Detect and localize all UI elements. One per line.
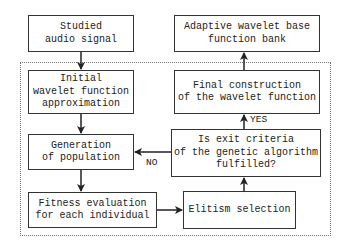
node-initial-wavelet-approximation: Initial wavelet function approximation bbox=[28, 70, 134, 114]
node-elitism-selection: Elitism selection bbox=[183, 191, 296, 229]
edge-label-yes: YES bbox=[250, 114, 267, 125]
node-fitness-evaluation: Fitness evaluation for each individual bbox=[28, 192, 157, 228]
node-studied-audio-signal: Studied audio signal bbox=[28, 15, 134, 52]
edge-label-no: NO bbox=[146, 157, 157, 168]
node-final-wavelet-construction: Final construction of the wavelet functi… bbox=[174, 70, 320, 114]
node-generation-of-population: Generation of population bbox=[28, 134, 134, 170]
node-exit-criteria-decision: Is exit criteria of the genetic algorith… bbox=[171, 129, 321, 177]
node-adaptive-wavelet-bank: Adaptive wavelet base function bank bbox=[174, 15, 320, 52]
